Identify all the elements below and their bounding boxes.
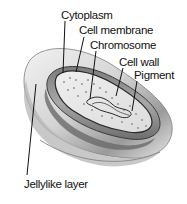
label-cytoplasm: Cytoplasm: [61, 9, 113, 21]
label-cell-membrane: Cell membrane: [79, 24, 153, 36]
label-jellylike-layer: Jellylike layer: [24, 178, 88, 190]
label-chromosome: Chromosome: [90, 39, 156, 51]
label-cell-wall: Cell wall: [119, 56, 159, 68]
cell-diagram: Cytoplasm Cell membrane Chromosome Cell …: [0, 0, 187, 204]
label-pigment: Pigment: [134, 69, 174, 81]
